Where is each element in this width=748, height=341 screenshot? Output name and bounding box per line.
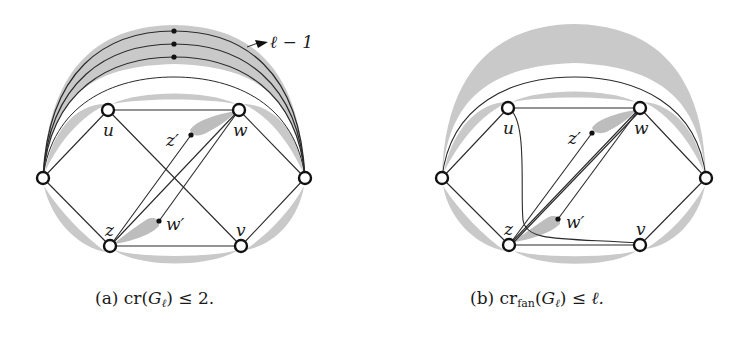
- vertex-left: [37, 172, 49, 184]
- caption-b-func: cr: [500, 288, 518, 308]
- label-u: u: [503, 118, 514, 138]
- label-z: z: [104, 220, 115, 240]
- vertex-right: [700, 172, 712, 184]
- label-z: z: [503, 219, 514, 239]
- label-w: w: [233, 120, 248, 140]
- label-zprime: z′: [165, 130, 179, 150]
- shaded-lower-band: [514, 251, 636, 264]
- caption-a-prefix: (a): [95, 288, 118, 308]
- shaded-lower-left-lobe: [44, 186, 106, 252]
- shaded-lower-right-lobe: [645, 186, 705, 249]
- vertex-z: [503, 239, 515, 251]
- arc-dot-3: [171, 54, 176, 59]
- vertex-u: [102, 104, 114, 116]
- caption-a-rhs: 2.: [198, 288, 214, 308]
- shaded-lower-right-lobe: [245, 186, 304, 250]
- label-v: v: [636, 219, 646, 239]
- label-wprime: w′: [566, 212, 585, 232]
- caption-b-func-sub: fan: [517, 297, 535, 310]
- shaded-lower-band: [114, 250, 238, 264]
- vertex-w: [634, 102, 646, 114]
- wprime-dot: [555, 216, 560, 221]
- annotation-l-minus-1: ℓ − 1: [270, 32, 313, 52]
- caption-b-arg: G: [542, 288, 556, 308]
- label-u: u: [103, 120, 114, 140]
- vertex-w: [233, 104, 245, 116]
- top-arc-4: [43, 77, 305, 178]
- shaded-upper-band: [112, 94, 236, 105]
- arc-dot-1: [171, 28, 176, 33]
- caption-a-func: cr: [124, 288, 142, 308]
- caption-a-arg: G: [148, 288, 162, 308]
- caption-a: (a) cr(Gℓ) ≤ 2.: [95, 288, 214, 310]
- label-w: w: [634, 118, 649, 138]
- caption-b-rhs: ℓ.: [591, 288, 603, 308]
- shaded-upper-band: [512, 92, 636, 103]
- label-wprime: w′: [166, 214, 185, 234]
- zprime-dot: [188, 132, 193, 137]
- panel-b-drawing: u w z v z′ w′: [436, 24, 712, 264]
- caption-a-rel: ≤: [178, 288, 192, 308]
- vertex-z: [104, 240, 116, 252]
- panel-a-drawing: ℓ − 1 u w z v z′: [37, 25, 313, 264]
- shaded-lower-left-lobe: [443, 186, 505, 251]
- arc-dot-2: [171, 41, 176, 46]
- vertex-v: [634, 239, 646, 251]
- label-zprime: z′: [567, 128, 581, 148]
- vertex-left: [436, 172, 448, 184]
- zprime-dot: [589, 130, 594, 135]
- caption-b-prefix: (b): [470, 288, 494, 308]
- shaded-top-band: [442, 24, 706, 178]
- shaded-top-band: [43, 25, 305, 178]
- annotation-arrow-icon: [255, 40, 268, 48]
- vertex-v: [235, 240, 247, 252]
- label-v: v: [236, 220, 246, 240]
- caption-b: (b) crfan(Gℓ) ≤ ℓ.: [470, 288, 604, 310]
- vertex-right: [299, 172, 311, 184]
- vertex-u: [502, 102, 514, 114]
- wprime-dot: [156, 218, 161, 223]
- caption-b-rel: ≤: [572, 288, 586, 308]
